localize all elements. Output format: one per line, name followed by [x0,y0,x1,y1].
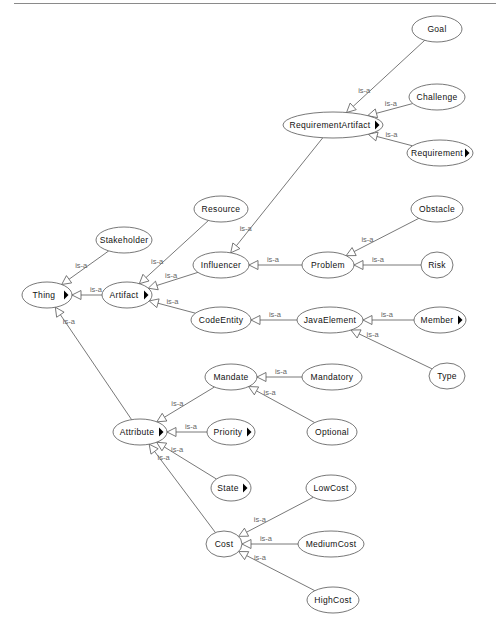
edge-label: is-a [385,130,398,139]
edge-medium-cost-to-cost: is-a [242,534,298,549]
edge-label: is-a [260,534,273,543]
node-label: Member [421,315,454,325]
hollow-arrowhead-icon [167,428,176,437]
edge-label: is-a [165,271,178,280]
edge-challenge-to-requirement-artifact: is-a [368,99,413,117]
ontology-graph: is-ais-ais-ais-ais-ais-ais-ais-ais-ais-a… [0,0,500,637]
node-state[interactable]: State [211,475,251,501]
edge-java-element-to-code-entity: is-a [251,310,297,325]
edge-label: is-a [158,453,171,462]
node-label: Mandate [213,372,248,382]
edge-label: is-a [361,235,374,244]
node-label: Resource [202,204,241,214]
edge-label: is-a [166,297,179,306]
edge-obstacle-to-problem: is-a [346,218,419,255]
edge-line [155,451,216,532]
node-medium-cost[interactable]: MediumCost [298,531,364,557]
node-mandate[interactable]: Mandate [205,364,257,390]
edge-label: is-a [267,255,280,264]
node-risk[interactable]: Risk [421,252,453,278]
node-label: Optional [315,427,349,437]
edge-label: is-a [264,388,277,397]
edge-line [60,315,131,420]
node-artifact[interactable]: Artifact [102,282,152,308]
edge-label: is-a [63,317,76,326]
hollow-arrowhead-icon [72,291,81,300]
edge-label: is-a [275,367,288,376]
edge-label: is-a [151,257,164,266]
edge-label: is-a [171,399,184,408]
node-label: Type [437,371,457,381]
node-requirement[interactable]: Requirement [407,140,473,166]
edge-requirement-to-requirement-artifact: is-a [368,130,412,146]
node-label: Cost [215,539,234,549]
hollow-arrowhead-icon [242,540,251,549]
edge-label: is-a [367,330,380,339]
node-label: Influencer [201,260,241,270]
node-high-cost[interactable]: HighCost [307,587,359,613]
node-problem[interactable]: Problem [302,252,354,278]
hollow-arrowhead-icon [257,373,266,382]
node-optional[interactable]: Optional [307,419,357,445]
node-member[interactable]: Member [414,307,466,333]
node-label: Stakeholder [100,235,149,245]
node-influencer[interactable]: Influencer [193,252,249,278]
edge-low-cost-to-cost: is-a [239,497,314,536]
node-type[interactable]: Type [429,363,465,389]
edge-mandate-to-attribute: is-a [157,387,215,422]
edge-label: is-a [269,310,282,319]
node-low-cost[interactable]: LowCost [306,475,356,501]
node-cost[interactable]: Cost [206,531,242,557]
node-goal[interactable]: Goal [412,16,462,42]
edge-label: is-a [171,445,184,454]
node-label: RequirementArtifact [290,120,371,130]
hollow-arrowhead-icon [231,243,240,253]
hollow-arrowhead-icon [62,276,72,285]
node-mandatory[interactable]: Mandatory [302,364,362,390]
hollow-arrowhead-icon [55,307,64,317]
edge-problem-to-influencer: is-a [249,255,302,270]
edge-label: is-a [372,255,385,264]
node-label: Risk [428,260,446,270]
node-priority[interactable]: Priority [207,419,255,445]
node-java-element[interactable]: JavaElement [297,307,363,333]
node-label: JavaElement [304,315,357,325]
edge-attribute-to-thing: is-a [55,307,131,419]
node-stakeholder[interactable]: Stakeholder [96,227,152,253]
node-label: Problem [311,260,345,270]
node-label: State [217,483,238,493]
edge-label: is-a [381,310,394,319]
edge-label: is-a [75,261,88,270]
node-obstacle[interactable]: Obstacle [411,196,463,222]
node-challenge[interactable]: Challenge [409,84,465,110]
edge-influencer-to-artifact: is-a [148,271,198,290]
edge-label: is-a [90,285,103,294]
node-label: Goal [427,24,446,34]
edge-priority-to-attribute: is-a [167,422,207,437]
node-thing[interactable]: Thing [22,282,72,308]
edge-label: is-a [385,99,398,108]
node-label: Challenge [417,92,458,102]
node-code-entity[interactable]: CodeEntity [191,307,251,333]
edge-optional-to-mandate: is-a [249,387,315,423]
node-attribute[interactable]: Attribute [113,419,167,445]
edge-high-cost-to-cost: is-a [239,552,315,591]
node-label: Requirement [411,148,463,158]
hollow-arrowhead-icon [157,413,167,422]
edge-label: is-a [254,553,267,562]
edge-risk-to-problem: is-a [354,255,421,270]
edge-mandatory-to-mandate: is-a [257,367,302,382]
hollow-arrowhead-icon [251,316,260,325]
node-label: LowCost [313,483,349,493]
node-resource[interactable]: Resource [194,196,248,222]
edge-label: is-a [254,515,267,524]
hollow-arrowhead-icon [157,442,167,451]
node-requirement-artifact[interactable]: RequirementArtifact [283,112,383,138]
edge-label: is-a [240,224,253,233]
edge-label: is-a [358,86,371,95]
edge-line [157,272,198,285]
edge-stakeholder-to-thing: is-a [62,251,109,285]
node-label: Priority [214,427,243,437]
hollow-arrowhead-icon [249,387,259,395]
node-label: Mandatory [311,372,354,382]
